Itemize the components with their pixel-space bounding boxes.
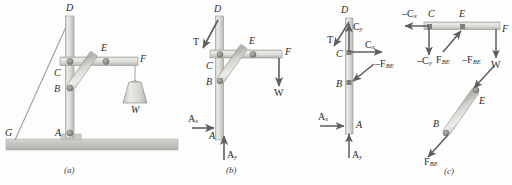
arrow-FBE-boom-c xyxy=(443,31,461,52)
label-c-negFBE-mast: –FBE xyxy=(375,59,394,70)
pin-e-a xyxy=(103,58,109,64)
arrow-FBE-link-c xyxy=(428,135,448,157)
label-c-negFBE-link: –FBE xyxy=(462,55,481,66)
label-c-E-link: E xyxy=(479,96,485,106)
pin-b-c xyxy=(347,80,352,85)
label-a-D: D xyxy=(66,3,73,13)
panel-b xyxy=(192,16,282,160)
label-b-B: B xyxy=(206,77,212,87)
arrow-negFBE-mast-c xyxy=(353,64,374,81)
pin-b-b xyxy=(217,78,223,84)
label-c-negCy: –Cy xyxy=(417,56,432,67)
panel-c-boom xyxy=(405,22,500,58)
label-b-F: F xyxy=(285,47,291,57)
label-c-Cy: Cy xyxy=(353,22,363,33)
label-b-Ay: Ay xyxy=(227,150,237,161)
label-c-B: B xyxy=(336,79,342,89)
label-c-negCx: –Cx xyxy=(402,9,417,20)
label-c-T: T xyxy=(327,35,333,45)
label-a-W: W xyxy=(131,105,139,115)
label-c-W: W xyxy=(491,60,501,70)
link-be-c xyxy=(443,88,479,135)
caption-b: (b) xyxy=(226,165,237,175)
label-c-F: F xyxy=(502,24,508,34)
label-c-FBE-link: FBE xyxy=(424,157,438,168)
label-c-D: D xyxy=(341,5,348,15)
pin-c-a xyxy=(67,58,73,64)
panel-c-link xyxy=(428,66,494,157)
label-c-C: C xyxy=(336,49,343,59)
label-c-Ay: Ay xyxy=(352,150,362,161)
label-c-B-link: B xyxy=(433,119,439,129)
label-a-F: F xyxy=(140,54,146,64)
label-c-C-boom: C xyxy=(428,9,435,19)
panel-a xyxy=(6,16,178,150)
label-a-B: B xyxy=(54,84,60,94)
label-a-A: A xyxy=(55,128,61,138)
label-b-W: W xyxy=(274,88,284,98)
cable-gd xyxy=(15,18,70,140)
pin-b-a xyxy=(67,85,73,91)
label-b-A: A xyxy=(209,131,215,141)
label-a-C: C xyxy=(54,68,61,78)
label-b-D: D xyxy=(214,4,221,14)
label-c-A: A xyxy=(356,120,362,130)
caption-c: (c) xyxy=(444,166,454,176)
pin-a-a xyxy=(67,130,73,136)
caption-a: (a) xyxy=(64,165,75,175)
label-b-T: T xyxy=(193,37,199,47)
label-c-E-boom: E xyxy=(459,9,465,19)
pin-c-b xyxy=(217,52,223,58)
pin-e-b xyxy=(250,52,256,58)
label-c-Cx: Cx xyxy=(365,40,375,51)
label-b-C: C xyxy=(206,61,213,71)
label-a-E: E xyxy=(101,43,107,53)
label-a-G: G xyxy=(5,128,12,138)
ground-a xyxy=(6,139,178,150)
pin-e-boom-c xyxy=(460,24,465,29)
label-c-Ax: Ax xyxy=(318,112,328,123)
label-b-Ax: Ax xyxy=(188,114,198,125)
label-b-E: E xyxy=(249,36,255,46)
weight-block-a xyxy=(123,82,147,103)
label-c-FBE-boom: FBE xyxy=(436,55,450,66)
